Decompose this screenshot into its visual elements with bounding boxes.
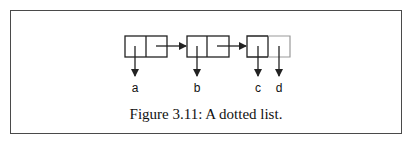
label-d: d <box>276 81 283 95</box>
label-c: c <box>255 81 261 95</box>
dotted-list-diagram <box>0 0 412 145</box>
label-a: a <box>132 81 139 95</box>
figure-caption: Figure 3.11: A dotted list. <box>0 106 412 123</box>
cons-cell-3 <box>247 36 290 57</box>
label-b: b <box>194 81 201 95</box>
